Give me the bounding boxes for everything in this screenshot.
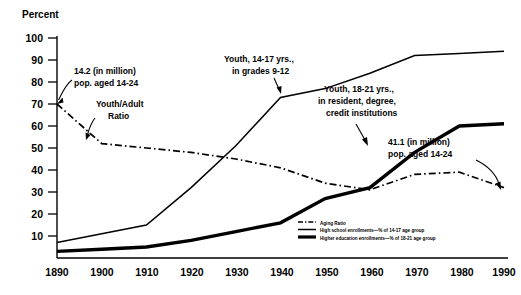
x-tick-label-1940: 1940 [270,266,294,278]
annotation-high-school-arrowhead [277,86,282,94]
annotation-youth-adult-line2: Ratio [108,111,129,121]
annotation-youth-adult: Youth/Adult Ratio [86,99,144,140]
x-tick-label-1950: 1950 [315,266,339,278]
annotation-youth-adult-line1: Youth/Adult [96,99,144,109]
y-axis-tick-labels: 100 90 80 70 60 50 40 30 20 10 [25,32,43,242]
x-tick-label-1980: 1980 [450,266,474,278]
x-tick-label-1970: 1970 [405,266,429,278]
annotation-higher-ed-line2: in resident, degree, [318,96,396,106]
annotation-pop-1990: 41.1 (in million) pop. aged 14-24 [388,137,501,190]
y-axis-ticks [48,38,57,236]
annotation-pop-1890-line1: 14.2 (in million) [74,66,136,76]
chart-legend: Aging Ratio High school enrollments—% of… [298,221,436,241]
annotation-pop-1890-leader [59,80,73,100]
annotation-pop-1890-line2: pop. aged 14-24 [74,78,139,88]
x-axis-tick-labels: 1890 1900 1910 1920 1930 1940 1950 1960 … [45,266,516,278]
annotation-high-school-line2: in grades 9-12 [232,66,289,76]
y-axis-title: Percent [22,9,59,20]
annotation-high-school: Youth, 14-17 yrs., in grades 9-12 [224,54,294,94]
legend-label-aging-ratio: Aging Ratio [320,221,346,226]
y-tick-label-80: 80 [31,76,43,88]
annotation-higher-ed-line3: credit institutions [326,108,398,118]
annotation-youth-adult-leader [88,118,96,135]
y-tick-label-10: 10 [31,230,43,242]
x-tick-label-1900: 1900 [90,266,114,278]
x-tick-label-1890: 1890 [45,266,69,278]
x-tick-label-1920: 1920 [180,266,204,278]
y-tick-label-20: 20 [31,208,43,220]
chart-container: Percent 100 90 80 70 60 50 40 30 [0,0,521,295]
annotation-higher-ed-leader [356,124,365,140]
x-tick-label-1990: 1990 [492,266,516,278]
legend-label-high-school: High school enrollments—% of 14-17 age g… [320,228,425,233]
y-tick-label-50: 50 [31,142,43,154]
annotation-pop-1990-line1: 41.1 (in million) [388,137,450,147]
annotation-higher-ed-arrowhead [362,137,368,146]
annotation-pop-1990-line2: pop. aged 14-24 [388,149,453,159]
y-tick-label-100: 100 [25,32,43,44]
annotation-higher-ed-line1: Youth, 18-21 yrs., [324,84,394,94]
annotation-higher-ed: Youth, 18-21 yrs., in resident, degree, … [318,84,398,146]
line-chart: Percent 100 90 80 70 60 50 40 30 [0,0,521,295]
y-tick-label-60: 60 [31,120,43,132]
annotation-high-school-line1: Youth, 14-17 yrs., [224,54,294,64]
annotation-pop-1990-arrowhead [496,182,502,191]
x-tick-label-1960: 1960 [360,266,384,278]
y-tick-label-40: 40 [31,164,43,176]
x-tick-label-1910: 1910 [135,266,159,278]
legend-label-higher-education: Higher education enrollments—% of 18-21 … [320,236,436,241]
y-tick-label-70: 70 [31,98,43,110]
y-tick-label-90: 90 [31,54,43,66]
y-tick-label-30: 30 [31,186,43,198]
annotation-pop-1890-arrowhead [57,98,64,105]
annotation-pop-1990-leader [476,160,499,184]
x-tick-label-1930: 1930 [225,266,249,278]
